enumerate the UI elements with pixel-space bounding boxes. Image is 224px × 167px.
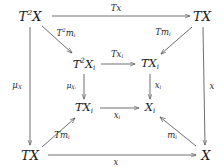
edge-label-inner-bottom-xi: xi bbox=[114, 111, 120, 120]
node-TX-top-right: TX bbox=[193, 10, 211, 23]
node-TXi-bottom-left: TXi bbox=[75, 102, 93, 114]
edge-label-left-outer-muX: μX bbox=[12, 81, 21, 90]
edge-label-bottom-x: x bbox=[114, 158, 119, 167]
edge-label-inner-top-Txi: Txi bbox=[111, 50, 123, 59]
diagram-arrows-layer bbox=[0, 0, 224, 167]
edge-label-diag-top-left-T2mi: T2mi bbox=[57, 28, 76, 38]
node-T2X: T2X bbox=[18, 9, 41, 22]
arrow-right-outer-x bbox=[203, 27, 205, 145]
edge-label-top-Tx: Tx bbox=[111, 4, 121, 13]
arrow-diag-bottom-right-mi bbox=[160, 117, 196, 146]
edge-label-diag-bottom-right-mi: mi bbox=[167, 131, 177, 140]
node-TX-bottom-left: TX bbox=[21, 149, 39, 162]
edge-label-right-outer-x: x bbox=[210, 82, 215, 91]
node-TXi-top-right: TXi bbox=[141, 58, 159, 70]
node-Xi-bottom-right: Xi bbox=[145, 102, 155, 114]
edge-label-inner-right-xi: xi bbox=[155, 81, 161, 90]
edge-label-diag-top-right-Tmi: Tmi bbox=[155, 28, 170, 37]
node-X-bottom-right: X bbox=[201, 149, 210, 162]
edge-label-inner-left-muXi: μXi bbox=[66, 82, 75, 91]
commutative-diagram: T2X TX T2Xi TXi TXi Xi TX X Tx T2mi Tmi … bbox=[0, 0, 224, 167]
node-T2Xi: T2Xi bbox=[73, 57, 96, 71]
edge-label-diag-bottom-left-Tmi: Tmi bbox=[54, 131, 69, 140]
